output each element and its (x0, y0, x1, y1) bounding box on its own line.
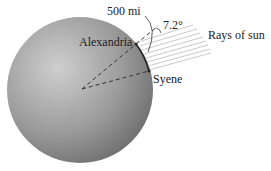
syene-point (148, 70, 151, 73)
alexandria-point (135, 43, 138, 46)
rays-label: Rays of sun (208, 29, 265, 41)
syene-label: Syene (153, 73, 182, 85)
distance-label: 500 mi (107, 5, 141, 17)
angle-arc (156, 28, 161, 33)
diagram-canvas (0, 0, 271, 171)
alexandria-label: Alexandria (79, 36, 132, 48)
angle-label: 7.2° (163, 19, 183, 31)
